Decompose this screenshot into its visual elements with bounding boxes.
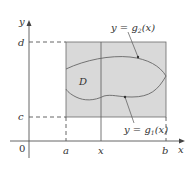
lower-curve-prefix: y = g xyxy=(123,124,151,135)
tick-label-x: x xyxy=(98,145,104,156)
lower-curve-label: y = g1(x) xyxy=(123,124,168,136)
y-axis-label: y xyxy=(18,16,25,27)
lower-curve-suffix: (x) xyxy=(155,124,169,135)
tick-label-d: d xyxy=(18,37,24,48)
upper-curve-suffix: (x) xyxy=(142,22,156,33)
tick-label-b: b xyxy=(162,145,168,156)
x-axis-label: x xyxy=(178,144,184,155)
g1-point xyxy=(124,96,126,98)
region-diagram: y d c 0 a x b x D y = g2(x) y = g1(x) xyxy=(0,0,196,170)
tick-label-a: a xyxy=(63,145,69,156)
g2-point xyxy=(137,56,139,58)
y-axis-arrow-icon xyxy=(27,20,32,26)
tick-label-c: c xyxy=(18,111,24,122)
upper-curve-prefix: y = g xyxy=(110,22,138,33)
region-label-d: D xyxy=(78,76,87,87)
upper-curve-label: y = g2(x) xyxy=(110,22,155,34)
origin-label: 0 xyxy=(19,143,25,154)
x-axis-arrow-icon xyxy=(179,139,185,144)
